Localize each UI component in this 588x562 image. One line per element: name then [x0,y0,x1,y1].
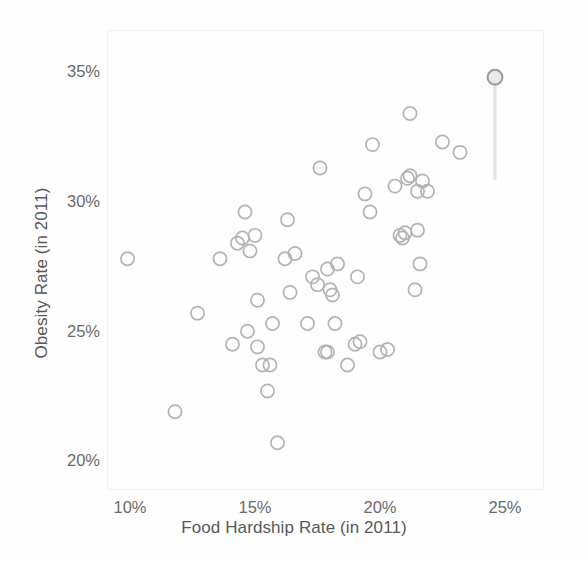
x-tick-label-25: 25% [470,498,540,517]
y-tick-label-20: 20% [34,451,100,470]
y-tick-label-35: 35% [34,62,100,81]
plot-area-frame [107,30,544,490]
x-tick-label-20: 20% [345,498,415,517]
x-tick-label-15: 15% [220,498,290,517]
x-tick-label-10: 10% [95,498,165,517]
scatter-plot-figure: 35% 30% 25% 20% 10% 15% 20% 25% Food Har… [0,0,588,562]
y-axis-title: Obesity Rate (in 2011) [32,123,52,423]
x-axis-title: Food Hardship Rate (in 2011) [0,518,588,538]
